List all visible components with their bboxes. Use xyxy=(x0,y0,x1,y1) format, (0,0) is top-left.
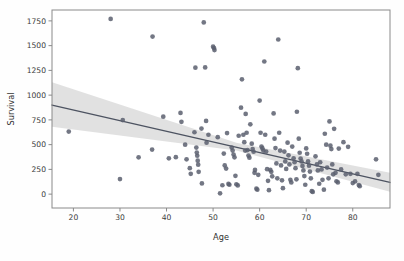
y-tick-label: 1500 xyxy=(27,41,46,50)
y-tick-label: 1750 xyxy=(27,17,46,26)
y-axis-label: Survival xyxy=(6,92,16,125)
y-tick-label: 1000 xyxy=(27,91,46,100)
x-tick-label: 60 xyxy=(255,213,265,222)
x-tick-label: 80 xyxy=(348,213,358,222)
x-axis-label: Age xyxy=(213,232,229,242)
y-tick-label: 750 xyxy=(32,116,47,125)
x-tick-label: 70 xyxy=(301,213,311,222)
x-tick-label: 50 xyxy=(208,213,218,222)
y-tick-label: 500 xyxy=(32,140,47,149)
x-tick-label: 40 xyxy=(162,213,172,222)
x-tick-label: 20 xyxy=(69,213,79,222)
y-tick-label: 1250 xyxy=(27,66,46,75)
scatter-plot: 20304050607080 0250500750100012501500175… xyxy=(0,0,404,261)
x-tick-label: 30 xyxy=(115,213,125,222)
y-tick-label: 0 xyxy=(41,190,46,199)
x-axis-ticks: 20304050607080 xyxy=(69,208,358,222)
y-tick-label: 250 xyxy=(32,165,47,174)
y-axis-ticks: 02505007501000125015001750 xyxy=(27,17,52,199)
figure-canvas: 20304050607080 0250500750100012501500175… xyxy=(0,0,404,261)
